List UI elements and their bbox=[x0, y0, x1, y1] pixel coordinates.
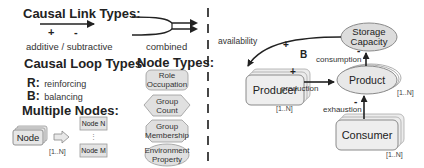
production-label: production bbox=[281, 84, 318, 93]
node-type-group-count: Group Count bbox=[146, 95, 188, 116]
node-type-label-line2: Count bbox=[156, 106, 177, 115]
node-type-role-occupation: Role Occupation bbox=[146, 70, 188, 90]
stacked-node-label: Node bbox=[13, 130, 43, 145]
product-node[interactable]: Product bbox=[337, 66, 397, 94]
multiple-nodes-title: Multiple Nodes: bbox=[22, 103, 119, 118]
loop-key-b: B: bbox=[27, 89, 40, 103]
node-type-group-membership: Group Membership bbox=[144, 120, 190, 142]
availability-sign: + bbox=[283, 39, 289, 50]
combined-arrow-icon bbox=[132, 17, 198, 35]
exhaustion-label: exhaustion bbox=[323, 105, 362, 114]
loop-label-balancing: balancing bbox=[44, 92, 83, 102]
node-type-environment-property: Environment Property bbox=[144, 144, 190, 166]
expand-arrow-icon bbox=[54, 131, 69, 143]
loop-type-balancing: B: balancing bbox=[27, 86, 83, 104]
node-type-label-line2: Membership bbox=[145, 131, 189, 140]
consumption-label: consumption bbox=[316, 55, 361, 64]
node-types-title: Node Types: bbox=[137, 55, 214, 70]
causal-loop-types-title: Causal Loop Types bbox=[24, 56, 142, 71]
additive-sign: + bbox=[48, 26, 54, 38]
product-multiplicity: [1..N] bbox=[397, 89, 414, 96]
node-type-label-line1: Group bbox=[156, 122, 178, 131]
stacked-node-multiplicity: [1..N] bbox=[49, 148, 66, 155]
node-type-label-line1: Role bbox=[159, 71, 175, 80]
expanded-node-m-label: Node M bbox=[80, 144, 107, 157]
consumer-multiplicity: [1..N] bbox=[386, 151, 403, 158]
availability-label: availability bbox=[218, 36, 257, 46]
node-type-label-line1: Environment bbox=[145, 146, 190, 155]
subtractive-sign: - bbox=[74, 26, 78, 38]
expanded-node-n-label: Node N bbox=[80, 117, 107, 130]
consumer-node[interactable]: Consumer bbox=[336, 120, 398, 150]
node-type-label-line1: Group bbox=[156, 97, 178, 106]
production-sign: + bbox=[290, 66, 296, 77]
combined-caption: combined bbox=[146, 41, 187, 52]
causal-link-types-title: Causal Link Types: bbox=[23, 6, 141, 21]
expanded-node-dots: ⋮ bbox=[80, 131, 107, 143]
storage-capacity-node[interactable]: Storage Capacity bbox=[341, 23, 397, 51]
producer-multiplicity: [1..N] bbox=[276, 105, 293, 112]
additive-subtractive-caption: additive / subtractive bbox=[26, 41, 113, 52]
consumption-sign: - bbox=[357, 45, 360, 56]
node-type-label-line2: Occupation bbox=[147, 80, 187, 89]
balancing-loop-marker: B bbox=[300, 49, 307, 60]
node-type-label-line2: Property bbox=[152, 155, 182, 164]
